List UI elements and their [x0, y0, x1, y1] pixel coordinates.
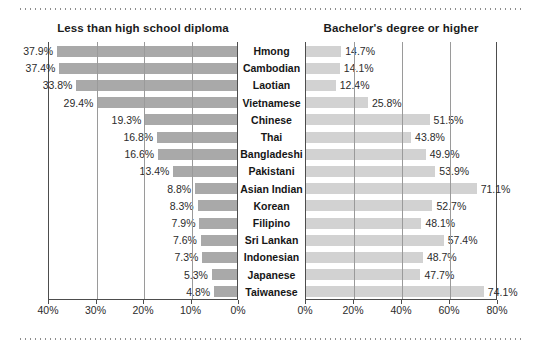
category-label: Japanese — [239, 266, 304, 284]
category-label: Pakistani — [239, 162, 304, 180]
gridline — [192, 42, 193, 299]
top-dotted-divider — [18, 8, 521, 10]
bar-value-label: 7.3% — [174, 249, 198, 265]
bar — [306, 286, 484, 297]
bar-value-label: 49.9% — [430, 146, 460, 162]
bar — [306, 80, 336, 91]
bar-value-label: 37.9% — [23, 43, 53, 59]
axis-tick-label: 0% — [218, 304, 258, 316]
bar-row: 71.1% — [306, 180, 496, 198]
bar — [199, 218, 237, 229]
bar — [306, 252, 423, 263]
bar-value-label: 19.3% — [112, 112, 142, 128]
bar-row: 13.4% — [49, 162, 237, 180]
bar — [306, 114, 430, 125]
bar — [76, 80, 237, 91]
bar-value-label: 16.8% — [123, 129, 153, 145]
bar-row: 8.8% — [49, 180, 237, 198]
axis-tick-label: 10% — [171, 304, 211, 316]
bar-row: 14.1% — [306, 59, 496, 77]
left-plot-area: 37.9%37.4%33.8%29.4%19.3%16.8%16.6%13.4%… — [48, 42, 238, 300]
bar-row: 53.9% — [306, 162, 496, 180]
bar-value-label: 8.8% — [167, 181, 191, 197]
bar-row: 19.3% — [49, 111, 237, 129]
bar-row: 48.1% — [306, 214, 496, 232]
bar-row: 12.4% — [306, 76, 496, 94]
chart-figure: Less than high school diploma Bachelor's… — [0, 0, 535, 349]
bar-value-label: 25.8% — [372, 95, 402, 111]
bar — [157, 132, 237, 143]
category-labels: HmongCambodianLaotianVietnameseChineseTh… — [239, 42, 304, 300]
category-label: Hmong — [239, 42, 304, 60]
bar-row: 14.7% — [306, 42, 496, 60]
bar — [306, 235, 444, 246]
category-label: Filipino — [239, 214, 304, 232]
bar-value-label: 37.4% — [26, 60, 56, 76]
axis-tick-label: 60% — [429, 304, 469, 316]
axis-tick-label: 80% — [477, 304, 517, 316]
axis-tick-label: 40% — [381, 304, 421, 316]
bar-value-label: 14.7% — [345, 43, 375, 59]
bar-row: 16.8% — [49, 128, 237, 146]
bar-row: 5.3% — [49, 266, 237, 284]
category-label: Taiwanese — [239, 283, 304, 301]
bar-value-label: 57.4% — [448, 232, 478, 248]
gridline — [354, 42, 355, 299]
gridline — [144, 42, 145, 299]
bar — [201, 235, 237, 246]
gridline — [97, 42, 98, 299]
bar-value-label: 16.6% — [124, 146, 154, 162]
bar-row: 37.4% — [49, 59, 237, 77]
bar-row: 52.7% — [306, 197, 496, 215]
axis-tick-label: 20% — [333, 304, 373, 316]
category-label: Asian Indian — [239, 180, 304, 198]
bar-value-label: 29.4% — [64, 95, 94, 111]
gridline — [450, 42, 451, 299]
bar-row: 47.7% — [306, 266, 496, 284]
bar-row: 74.1% — [306, 283, 496, 301]
bar-row: 4.8% — [49, 283, 237, 301]
bar-value-label: 43.8% — [415, 129, 445, 145]
bar — [306, 63, 340, 74]
category-label: Korean — [239, 197, 304, 215]
bar — [158, 149, 237, 160]
axis-tick-label: 30% — [76, 304, 116, 316]
bar-value-label: 48.7% — [427, 249, 457, 265]
bar — [198, 200, 237, 211]
bar — [214, 286, 237, 297]
bar-row: 51.5% — [306, 111, 496, 129]
bar-row: 49.9% — [306, 145, 496, 163]
axis-tick-label: 0% — [285, 304, 325, 316]
bar-value-label: 33.8% — [43, 77, 73, 93]
bar — [306, 46, 341, 57]
bar-row: 7.3% — [49, 248, 237, 266]
bar-value-label: 53.9% — [439, 163, 469, 179]
bar-row: 48.7% — [306, 248, 496, 266]
bar — [195, 183, 237, 194]
right-panel-title: Bachelor's degree or higher — [305, 22, 497, 34]
right-bar-rows: 14.7%14.1%12.4%25.8%51.5%43.8%49.9%53.9%… — [306, 42, 496, 299]
bottom-dotted-divider — [18, 338, 521, 340]
category-label: Indonesian — [239, 248, 304, 266]
bar-row: 7.9% — [49, 214, 237, 232]
bar — [306, 132, 411, 143]
category-label: Sri Lankan — [239, 231, 304, 249]
bar-value-label: 52.7% — [436, 198, 466, 214]
category-label: Chinese — [239, 111, 304, 129]
bar-value-label: 5.3% — [184, 267, 208, 283]
bar — [212, 269, 237, 280]
bar — [306, 97, 368, 108]
bar-row: 16.6% — [49, 145, 237, 163]
bar-value-label: 74.1% — [488, 284, 518, 300]
bar — [306, 166, 435, 177]
category-label: Laotian — [239, 76, 304, 94]
bar-value-label: 51.5% — [434, 112, 464, 128]
bar — [57, 46, 237, 57]
bar — [306, 200, 432, 211]
bar — [97, 97, 237, 108]
bar-row: 25.8% — [306, 94, 496, 112]
bar-value-label: 14.1% — [344, 60, 374, 76]
left-panel-title: Less than high school diploma — [48, 22, 238, 34]
bar — [59, 63, 237, 74]
bar-row: 8.3% — [49, 197, 237, 215]
